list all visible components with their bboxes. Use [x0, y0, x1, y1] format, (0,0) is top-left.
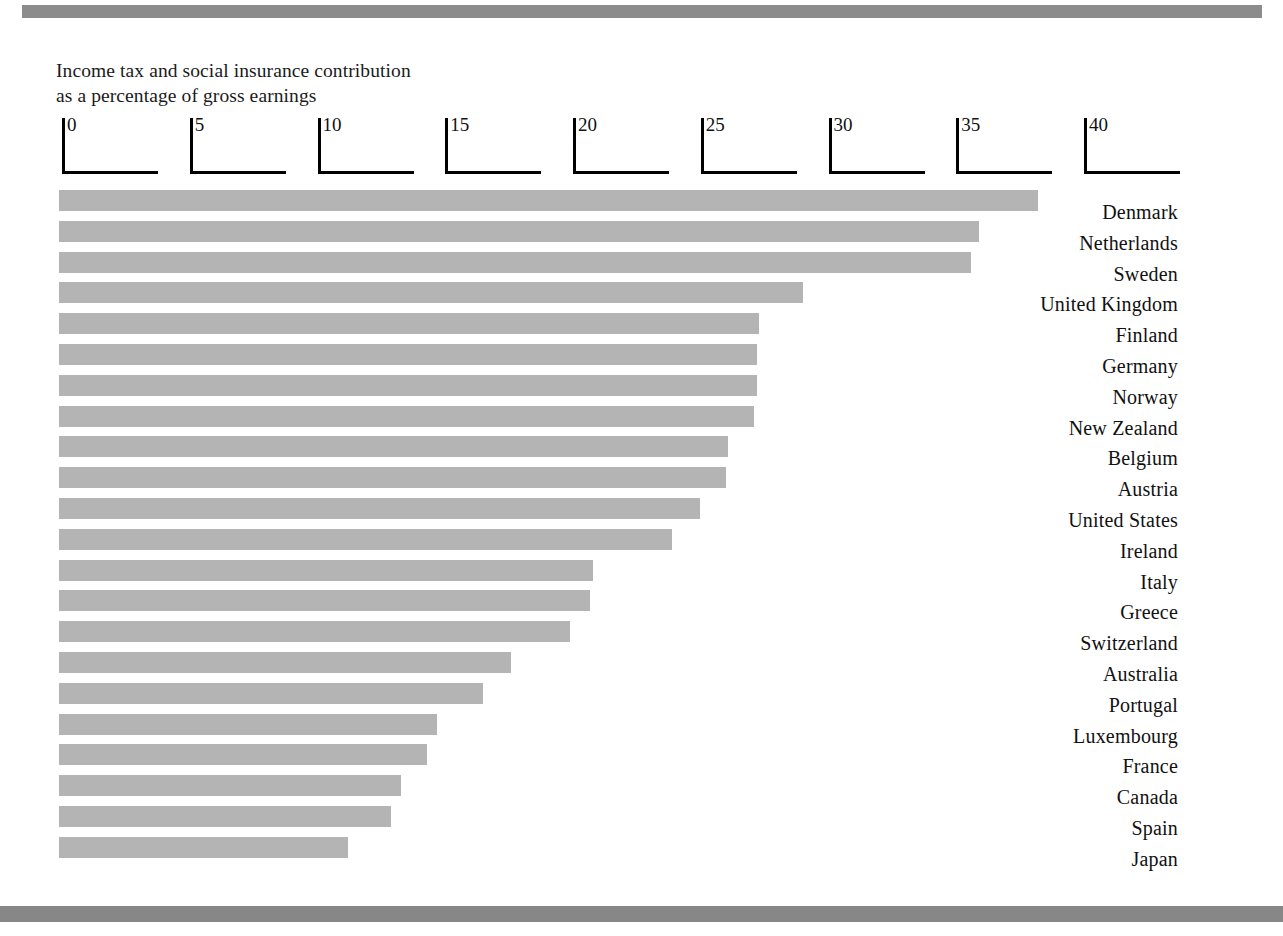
category-label: Finland [758, 324, 1178, 346]
bar [59, 744, 427, 765]
bar [59, 621, 570, 642]
category-label: Denmark [758, 201, 1178, 223]
category-label: Greece [758, 601, 1178, 623]
category-label: Austria [758, 478, 1178, 500]
category-label: France [758, 755, 1178, 777]
category-label: Netherlands [758, 232, 1178, 254]
category-label: Germany [758, 355, 1178, 377]
category-label: Portugal [758, 694, 1178, 716]
bar [59, 344, 757, 365]
bar [59, 683, 483, 704]
bar [59, 406, 754, 427]
bar-chart: Income tax and social insurance contribu… [0, 0, 1283, 936]
category-label: Luxembourg [758, 725, 1178, 747]
category-label: Canada [758, 786, 1178, 808]
bar [59, 436, 728, 457]
bar [59, 837, 348, 858]
category-label: Switzerland [758, 632, 1178, 654]
category-label: Spain [758, 817, 1178, 839]
bar [59, 375, 757, 396]
bar [59, 652, 511, 673]
category-label: Australia [758, 663, 1178, 685]
category-label: Norway [758, 386, 1178, 408]
category-label: New Zealand [758, 417, 1178, 439]
bar [59, 806, 391, 827]
category-label: Italy [758, 571, 1178, 593]
bar [59, 714, 437, 735]
bar [59, 560, 593, 581]
category-label: United States [758, 509, 1178, 531]
category-label: Japan [758, 848, 1178, 870]
bar [59, 590, 590, 611]
bar [59, 313, 759, 334]
category-label: Ireland [758, 540, 1178, 562]
category-label: United Kingdom [758, 293, 1178, 315]
bar [59, 775, 401, 796]
bar [59, 498, 700, 519]
plot-area: DenmarkNetherlandsSwedenUnited KingdomFi… [0, 0, 1283, 936]
bar [59, 467, 726, 488]
category-label: Sweden [758, 263, 1178, 285]
bar [59, 529, 672, 550]
category-label: Belgium [758, 447, 1178, 469]
bar [59, 282, 803, 303]
